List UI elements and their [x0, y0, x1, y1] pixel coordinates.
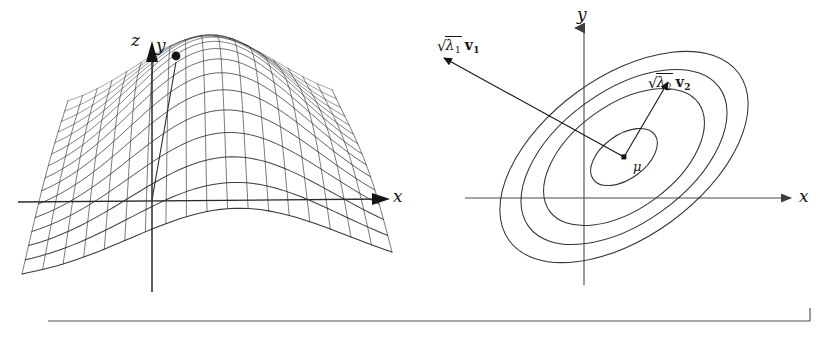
mesh-line: [22, 101, 68, 274]
mesh-line: [68, 36, 332, 101]
mesh-line: [317, 84, 371, 245]
mesh-line: [185, 40, 186, 217]
contour-y-axis-label: y: [577, 6, 587, 23]
figure-root: z y x: [0, 0, 826, 338]
mesh-line: [45, 59, 362, 178]
mesh-line: [166, 46, 171, 224]
sqrt-lambda-1: √λ1: [437, 36, 462, 55]
v2-symbol: v: [676, 74, 684, 90]
mean-point-marker: [621, 154, 626, 159]
contour-x-axis-label: x: [799, 188, 809, 205]
x-axis-arrowhead: [372, 193, 390, 205]
gaussian-surface-panel: z y x: [0, 0, 413, 338]
lambda-1-subscript: 1: [454, 45, 460, 55]
v2-subscript: 2: [684, 82, 691, 92]
mesh-line: [55, 37, 349, 143]
surface-z-axis-label: z: [131, 32, 140, 49]
radicand-2: λ2: [656, 73, 673, 92]
gaussian-contour-panel: y x μ √λ1 v1 √λ2 v2: [413, 0, 826, 338]
eigen-1-label: √λ1 v1: [437, 36, 480, 55]
eigen-2-label: √λ2 v2: [648, 73, 691, 92]
mesh-line: [22, 208, 392, 274]
surface-wireframe: [22, 35, 392, 274]
mesh-line: [52, 41, 354, 154]
mesh-line: [48, 49, 357, 166]
sqrt-lambda-2: √λ2: [648, 73, 673, 92]
surface-canvas: [0, 0, 413, 338]
mean-label: μ: [633, 160, 641, 173]
lambda-2-subscript: 2: [665, 82, 671, 92]
minor-axis-arrow: [624, 82, 668, 157]
eigenvector-2: v2: [673, 74, 691, 90]
principal-axis-arrows: [444, 58, 668, 157]
major-axis-arrow: [444, 58, 624, 157]
v1-symbol: v: [465, 37, 473, 53]
mesh-line: [42, 73, 367, 191]
surface-y-axis-label: y: [156, 37, 166, 54]
y-axis-arrowhead: [172, 52, 181, 61]
radicand-1: λ1: [445, 36, 462, 55]
surface-x-axis-label: x: [393, 188, 403, 205]
v1-subscript: 1: [473, 45, 480, 55]
eigenvector-1: v1: [462, 37, 480, 53]
